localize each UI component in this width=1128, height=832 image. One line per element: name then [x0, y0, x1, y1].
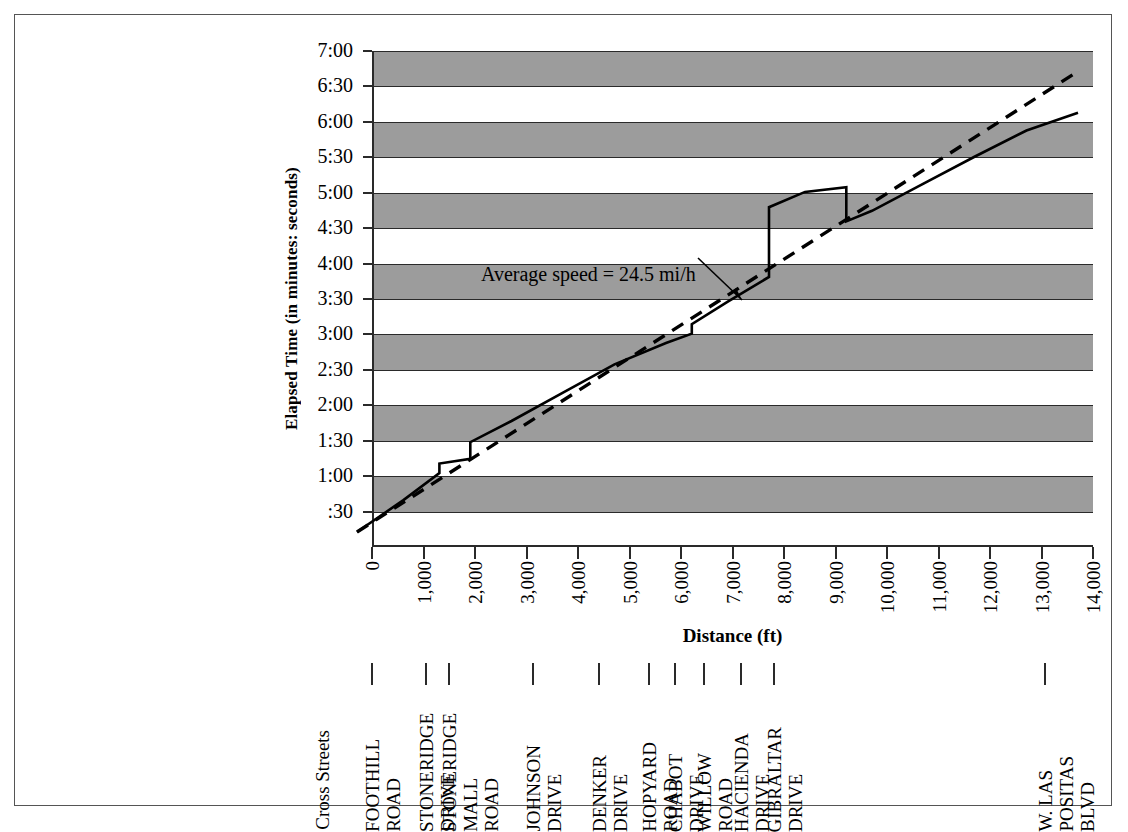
- background-band: [372, 334, 1093, 369]
- background-band: [372, 122, 1093, 157]
- y-axis-tick-label: 3:30: [317, 288, 353, 308]
- x-axis-tick: [474, 547, 476, 559]
- x-axis-tick-label: 8,000: [774, 561, 796, 604]
- y-axis-tick: [363, 369, 372, 371]
- gridline: [372, 441, 1093, 442]
- y-axis-tick: [363, 475, 372, 477]
- background-band: [372, 51, 1093, 86]
- y-axis-tick-label: 1:00: [317, 465, 353, 485]
- cross-street-name-line: W. LAS: [1035, 770, 1056, 832]
- cross-street-name: WILLOWROAD: [694, 687, 736, 832]
- x-axis-tick: [783, 547, 785, 559]
- y-axis-tick-label: 3:00: [317, 323, 353, 343]
- x-axis-tick: [1092, 547, 1094, 559]
- x-axis-tick: [989, 547, 991, 559]
- y-axis-tick-label: 5:00: [317, 182, 353, 202]
- x-axis-tick-label: 7,000: [723, 561, 745, 604]
- y-axis-tick: [363, 121, 372, 123]
- cross-street-name-line: GIBRALTAR: [764, 727, 785, 832]
- cross-street-tick: [648, 663, 650, 685]
- x-axis-tick: [423, 547, 425, 559]
- y-axis-tick: [363, 298, 372, 300]
- x-axis-tick-label: 4,000: [568, 561, 590, 604]
- gridline: [372, 476, 1093, 477]
- cross-street-tick: [371, 663, 373, 685]
- y-axis-line: [372, 51, 374, 547]
- cross-streets-label: Cross Streets: [312, 705, 336, 830]
- cross-street-ticks: [372, 663, 1093, 685]
- y-axis-tick-label: 2:00: [317, 394, 353, 414]
- cross-street-tick: [425, 663, 427, 685]
- cross-street-tick: [703, 663, 705, 685]
- y-axis-tick-label: 7:00: [317, 40, 353, 60]
- cross-street-tick: [448, 663, 450, 685]
- cross-street-name-line: FOOTHILL: [362, 739, 383, 832]
- x-axis-tick: [835, 547, 837, 559]
- x-axis-tick-label: 11,000: [929, 561, 951, 613]
- y-axis-tick-label: 2:30: [317, 359, 353, 379]
- cross-street-name-line: STONERIDGE: [439, 713, 460, 832]
- cross-street-name-line: WILLOW: [694, 753, 715, 832]
- y-axis-tick-label: 1:30: [317, 430, 353, 450]
- cross-street-name-line: DENKER: [589, 755, 610, 832]
- background-band: [372, 193, 1093, 228]
- gridline: [372, 157, 1093, 158]
- y-axis-tick-label: 4:30: [317, 217, 353, 237]
- y-axis-tick: [363, 440, 372, 442]
- x-axis-title: Distance (ft): [372, 625, 1093, 647]
- cross-street-name-line: HOPYARD: [639, 742, 660, 832]
- x-axis-tick: [526, 547, 528, 559]
- x-axis-tick-label: 6,000: [671, 561, 693, 604]
- x-axis-tick-label: 3,000: [517, 561, 539, 604]
- cross-street-name: DENKERDRIVE: [589, 687, 631, 832]
- cross-street-names: FOOTHILLROADSTONERIDGEDRIVESTONERIDGEMAL…: [372, 687, 1093, 832]
- background-band: [372, 405, 1093, 440]
- x-axis-tick-label: 2,000: [465, 561, 487, 604]
- x-axis-tick: [938, 547, 940, 559]
- cross-street-name-line: DRIVE: [610, 774, 631, 832]
- y-axis-tick-label: 5:30: [317, 146, 353, 166]
- gridline: [372, 51, 1093, 52]
- x-axis-tick: [680, 547, 682, 559]
- cross-streets-label-text: Cross Streets: [312, 730, 334, 830]
- cross-street-name: FOOTHILLROAD: [362, 687, 404, 832]
- cross-street-tick: [598, 663, 600, 685]
- cross-street-name-line: HACIENDA: [731, 733, 752, 832]
- cross-street-name: JOHNSONDRIVE: [523, 687, 565, 832]
- background-band: [372, 476, 1093, 511]
- x-axis-tick-label: 14,000: [1083, 561, 1105, 613]
- y-axis-tick: [363, 227, 372, 229]
- x-axis-tick-label: 5,000: [620, 561, 642, 604]
- gridline: [372, 512, 1093, 513]
- cross-street-name-line: STONERIDGE: [416, 713, 437, 832]
- gridline: [372, 122, 1093, 123]
- x-axis-tick-label: 0: [362, 561, 384, 571]
- gridline: [372, 299, 1093, 300]
- y-axis-tick: [363, 50, 372, 52]
- y-axis-tick-labels: 7:006:306:005:305:004:304:003:303:002:30…: [15, 51, 367, 547]
- average-speed-annotation: Average speed = 24.5 mi/h: [481, 263, 696, 286]
- cross-street-name-line: DRIVE: [544, 774, 565, 832]
- cross-street-name-line: JOHNSON: [523, 745, 544, 832]
- cross-street-name-line: CHABOT: [665, 754, 686, 832]
- cross-street-name: STONERIDGEMALLROAD: [439, 687, 502, 832]
- gridline: [372, 228, 1093, 229]
- x-axis-tick: [732, 547, 734, 559]
- y-axis-tick: [363, 263, 372, 265]
- y-axis-tick: [363, 333, 372, 335]
- y-axis-tick-label: :30: [327, 501, 353, 521]
- x-axis-tick-label: 13,000: [1032, 561, 1054, 613]
- gridline: [372, 86, 1093, 87]
- gridline: [372, 405, 1093, 406]
- cross-street-tick: [740, 663, 742, 685]
- cross-street-name-line: DRIVE: [785, 774, 806, 832]
- x-axis-tick-label: 10,000: [877, 561, 899, 613]
- figure-frame: Elapsed Time (in minutes: seconds) 7:006…: [14, 14, 1112, 806]
- x-axis-ticks: [372, 547, 1093, 559]
- y-axis-tick-label: 4:00: [317, 253, 353, 273]
- cross-street-name: GIBRALTARDRIVE: [764, 687, 806, 832]
- gridline: [372, 370, 1093, 371]
- cross-street-tick: [773, 663, 775, 685]
- x-axis-tick: [886, 547, 888, 559]
- x-axis-tick-label: 1,000: [414, 561, 436, 604]
